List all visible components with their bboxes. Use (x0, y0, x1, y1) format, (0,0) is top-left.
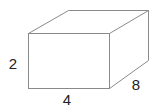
prism-edges (29, 11, 149, 89)
width-label: 4 (63, 91, 71, 108)
top-face (29, 11, 149, 34)
depth-label: 8 (132, 76, 140, 93)
prism-diagram: 2 4 8 (0, 0, 158, 109)
front-face (29, 34, 110, 89)
height-label: 2 (9, 55, 17, 72)
